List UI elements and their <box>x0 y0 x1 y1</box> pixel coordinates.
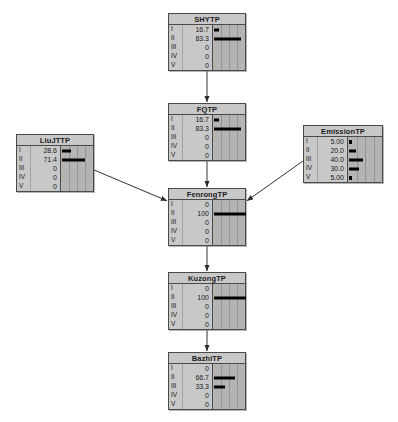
bar-row <box>213 61 245 70</box>
bar <box>349 176 352 180</box>
bar-row <box>213 151 245 160</box>
state-value: 0 <box>183 142 212 151</box>
state-value: 0 <box>183 200 212 209</box>
node-body: IIIIIIIVV16.783.3000 <box>169 115 245 160</box>
bar-row <box>213 284 245 293</box>
state-value: 16.7 <box>183 115 212 124</box>
bar <box>349 167 359 170</box>
bar-row <box>213 373 245 382</box>
state-value: 0 <box>183 133 212 142</box>
bar-chart <box>213 364 245 409</box>
bar-row <box>213 142 245 151</box>
node-fqtp[interactable]: FQTPIIIIIIIVV16.783.3000 <box>168 103 246 161</box>
state-value: 66.7 <box>183 373 212 382</box>
state-label: V <box>169 320 182 329</box>
node-fenrongtp[interactable]: FenrongTPIIIIIIIVV0100000 <box>168 188 246 246</box>
state-value: 0 <box>183 236 212 245</box>
state-value: 0 <box>31 173 60 182</box>
state-value: 0 <box>183 151 212 160</box>
state-label: I <box>169 364 182 373</box>
state-value: 71.4 <box>31 155 60 164</box>
state-label: IV <box>169 52 182 61</box>
state-label: IV <box>169 311 182 320</box>
state-value: 100 <box>183 209 212 218</box>
bar-row <box>213 311 245 320</box>
bar <box>214 37 241 40</box>
state-label: II <box>169 124 182 133</box>
state-value: 28.6 <box>31 146 60 155</box>
bar <box>349 140 352 144</box>
node-title: FQTP <box>169 104 245 115</box>
state-value: 0 <box>183 364 212 373</box>
state-label: IV <box>169 227 182 236</box>
state-label: III <box>169 43 182 52</box>
state-label-column: IIIIIIIVV <box>169 115 183 160</box>
state-value: 0 <box>183 52 212 61</box>
state-value: 0 <box>183 61 212 70</box>
state-value: 0 <box>183 320 212 329</box>
bar <box>214 127 241 130</box>
state-label: III <box>169 218 182 227</box>
node-title: SHYTP <box>169 14 245 25</box>
state-value: 20.0 <box>318 146 347 155</box>
node-title: FenrongTP <box>169 189 245 200</box>
state-label: V <box>169 151 182 160</box>
edge-liujttp-to-fenrongtp <box>94 170 167 201</box>
state-value: 0 <box>183 302 212 311</box>
state-label: V <box>169 61 182 70</box>
state-label-column: IIIIIIIVV <box>169 25 183 70</box>
bar-row <box>348 164 382 173</box>
bar-row <box>213 43 245 52</box>
node-bazhitp[interactable]: BazhiTPIIIIIIIVV066.733.300 <box>168 352 246 410</box>
node-body: IIIIIIIVV0100000 <box>169 284 245 329</box>
state-label: I <box>169 115 182 124</box>
node-body: IIIIIIIVV16.783.3000 <box>169 25 245 70</box>
value-column: 0100000 <box>183 200 213 245</box>
bar-row <box>213 400 245 409</box>
state-label: II <box>169 293 182 302</box>
bar <box>214 385 225 388</box>
bar-row <box>213 124 245 133</box>
state-label: III <box>169 133 182 142</box>
state-label: I <box>169 200 182 209</box>
bar-row <box>61 146 93 155</box>
bar-row <box>61 155 93 164</box>
state-label: III <box>169 302 182 311</box>
node-title: KuzongTP <box>169 273 245 284</box>
bar-row <box>213 227 245 236</box>
node-body: IIIIIIIVV066.733.300 <box>169 364 245 409</box>
state-value: 30.0 <box>318 164 347 173</box>
state-label: I <box>169 25 182 34</box>
state-label: V <box>304 173 317 182</box>
bar-chart <box>61 146 93 191</box>
bar-chart <box>213 284 245 329</box>
state-value: 16.7 <box>183 25 212 34</box>
bar <box>214 296 246 299</box>
bar-chart <box>213 115 245 160</box>
bar-row <box>213 391 245 400</box>
node-shytp[interactable]: SHYTPIIIIIIIVV16.783.3000 <box>168 13 246 71</box>
state-label-column: IIIIIIIVV <box>169 364 183 409</box>
bar-chart <box>213 200 245 245</box>
edge-emissiontp-to-fenrongtp <box>247 161 303 201</box>
state-label: III <box>17 164 30 173</box>
state-label-column: IIIIIIIVV <box>17 146 31 191</box>
state-label: II <box>17 155 30 164</box>
state-value: 0 <box>183 218 212 227</box>
bar-row <box>348 137 382 146</box>
bar-row <box>213 293 245 302</box>
node-emissiontp[interactable]: EmissionTPIIIIIIIVV5.0020.040.030.05.00 <box>303 125 383 183</box>
node-title: LiuJTTP <box>17 135 93 146</box>
bar-row <box>348 146 382 155</box>
bar-row <box>213 209 245 218</box>
state-value: 40.0 <box>318 155 347 164</box>
bar-row <box>213 302 245 311</box>
node-kuzongtp[interactable]: KuzongTPIIIIIIIVV0100000 <box>168 272 246 330</box>
state-label: II <box>169 209 182 218</box>
state-label: III <box>169 382 182 391</box>
bar-row <box>213 218 245 227</box>
bar-row <box>213 115 245 124</box>
bar-row <box>213 25 245 34</box>
node-liujttp[interactable]: LiuJTTPIIIIIIIVV28.671.4000 <box>16 134 94 192</box>
state-label: IV <box>17 173 30 182</box>
